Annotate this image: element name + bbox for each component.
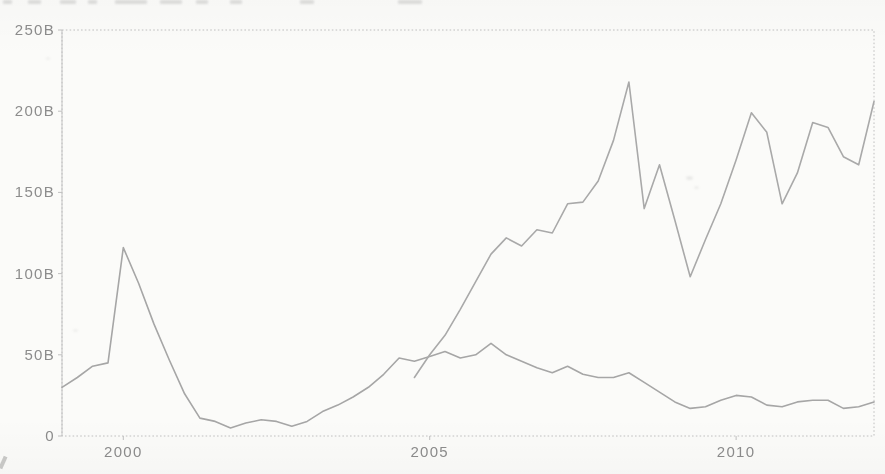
x-axis-tick-label: 2005: [410, 443, 449, 460]
scanned-line-chart-page: 050B100B150B200B250B200020052010: [0, 0, 885, 474]
y-axis-tick-label: 50B: [24, 346, 55, 363]
y-axis-tick-label: 0: [45, 427, 55, 444]
x-axis-tick-label: 2010: [717, 443, 756, 460]
line-chart: 050B100B150B200B250B200020052010: [0, 0, 885, 474]
y-axis-tick-label: 100B: [15, 265, 55, 282]
scan-speck: [73, 329, 78, 332]
series-line-1: [62, 248, 874, 428]
plot-border: [62, 30, 874, 436]
y-axis-tick-label: 200B: [15, 102, 55, 119]
scan-speck: [46, 57, 50, 60]
y-axis-tick-label: 250B: [15, 21, 55, 38]
x-axis-tick-label: 2000: [104, 443, 143, 460]
y-axis-tick-label: 150B: [15, 183, 55, 200]
scan-speck: [686, 176, 693, 180]
scan-speck: [694, 186, 699, 189]
series-line-2: [414, 82, 874, 378]
